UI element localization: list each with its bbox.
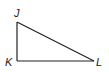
vertex-label-l: L: [96, 56, 102, 68]
vertex-label-j: J: [13, 7, 20, 19]
triangle-diagram: J K L: [0, 0, 109, 72]
vertex-label-k: K: [5, 56, 13, 68]
segment-lj: [17, 22, 94, 61]
